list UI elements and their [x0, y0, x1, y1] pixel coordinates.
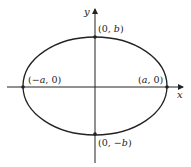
- point-bottom: [93, 132, 97, 136]
- point-top: [93, 35, 97, 39]
- label-top: (0, b): [98, 23, 124, 34]
- label-right: (a, 0): [138, 74, 163, 85]
- x-axis-label: x: [177, 89, 183, 100]
- point-right: [165, 85, 169, 89]
- y-axis-label: y: [83, 6, 90, 17]
- point-left: [21, 85, 25, 89]
- ellipse-diagram: y x (0, b) (0, −b) (−a, 0) (a, 0): [0, 0, 191, 167]
- label-left: (−a, 0): [28, 74, 61, 85]
- label-bottom: (0, −b): [98, 137, 132, 148]
